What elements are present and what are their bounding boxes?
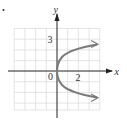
x-axis-arrow-icon	[106, 69, 113, 74]
x-tick-label: 2	[76, 72, 81, 83]
y-tick-label: 3	[48, 34, 53, 45]
axes	[8, 14, 112, 118]
chart-svg: x y 0 2 3	[0, 0, 127, 126]
y-axis-label: y	[53, 4, 59, 15]
x-axis-label: x	[114, 66, 120, 77]
origin-label: 0	[48, 71, 53, 82]
